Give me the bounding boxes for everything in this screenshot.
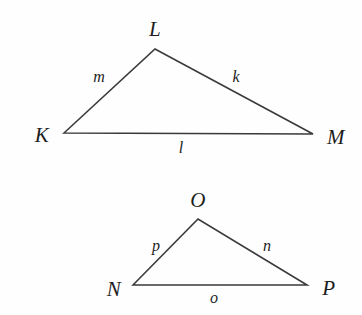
vertex-label-o: O: [190, 190, 206, 211]
vertex-label-p: P: [322, 278, 335, 299]
triangles-canvas: [0, 0, 362, 315]
side-label-k: k: [232, 69, 239, 85]
side-label-n: n: [263, 238, 271, 254]
vertex-label-l: L: [149, 19, 161, 40]
side-label-l: l: [179, 140, 183, 156]
triangle-klm-outline: [64, 49, 313, 134]
vertex-label-k: K: [35, 125, 50, 146]
vertex-label-n: N: [107, 279, 122, 300]
side-label-p: p: [152, 238, 160, 254]
side-label-m: m: [93, 69, 105, 85]
vertex-label-m: M: [327, 127, 345, 148]
geometry-figure: K L M m k l N O P p n o: [0, 0, 362, 315]
side-label-o: o: [210, 290, 218, 306]
